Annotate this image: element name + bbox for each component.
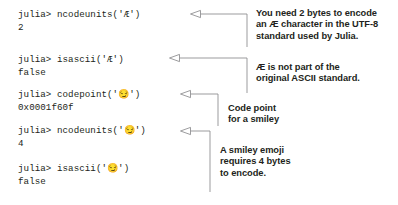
repl-output-line: 4 [18,137,146,150]
repl-input-line: julia> ncodeunits('Æ') [18,8,140,21]
repl-block-codepoint-emoji: julia> codepoint('😏') 0x0001f60f [18,88,140,114]
annotation-text-line: an Æ character in the UTF-8 [256,19,378,30]
annotation-text-line: A smiley emoji [220,145,291,156]
annotation-text-line: requires 4 bytes [220,156,291,167]
annotation-text-line: You need 2 bytes to encode [256,8,378,19]
leader-path-ascii-standard [180,58,248,93]
annotation-text-line: Code point [228,103,279,114]
repl-input-line: julia> isascii('😏') [18,162,129,175]
annotation-utf8-bytes: You need 2 bytes to encode an Æ characte… [256,8,378,42]
repl-input-line: julia> ncodeunits('😏') [18,124,146,137]
arrowhead-code-point [181,90,191,97]
encoding-figure: julia> ncodeunits('Æ') 2 julia> isascii(… [0,0,398,205]
repl-output-line: false [18,66,124,79]
annotation-ascii-standard: Æ is not part of the original ASCII stan… [256,62,360,85]
annotation-emoji-bytes: A smiley emoji requires 4 bytes to encod… [220,145,291,179]
arrowhead-ascii-standard [170,54,180,61]
leader-path-code-point [191,94,219,126]
repl-block-isascii-emoji: julia> isascii('😏') false [18,162,129,188]
annotation-text-line: original ASCII standard. [256,73,360,84]
repl-output-line: 0x0001f60f [18,101,140,114]
annotation-text-line: standard used by Julia. [256,31,378,42]
annotation-text-line: Æ is not part of the [256,62,360,73]
repl-input-line: julia> codepoint('😏') [18,88,140,101]
repl-input-line: julia> isascii('Æ') [18,53,124,66]
leader-path-utf8-bytes [201,14,248,47]
annotation-text-line: to encode. [220,168,291,179]
annotation-code-point: Code point for a smiley [228,103,279,126]
leader-path-emoji-bytes [191,131,211,192]
arrowhead-emoji-bytes [181,127,191,134]
repl-block-ncodeunits-emoji: julia> ncodeunits('😏') 4 [18,124,146,150]
annotation-text-line: for a smiley [228,114,279,125]
repl-block-isascii-ae: julia> isascii('Æ') false [18,53,124,79]
repl-output-line: false [18,175,129,188]
repl-block-ncodeunits-ae: julia> ncodeunits('Æ') 2 [18,8,140,34]
arrowhead-utf8-bytes [191,10,201,17]
repl-output-line: 2 [18,21,140,34]
